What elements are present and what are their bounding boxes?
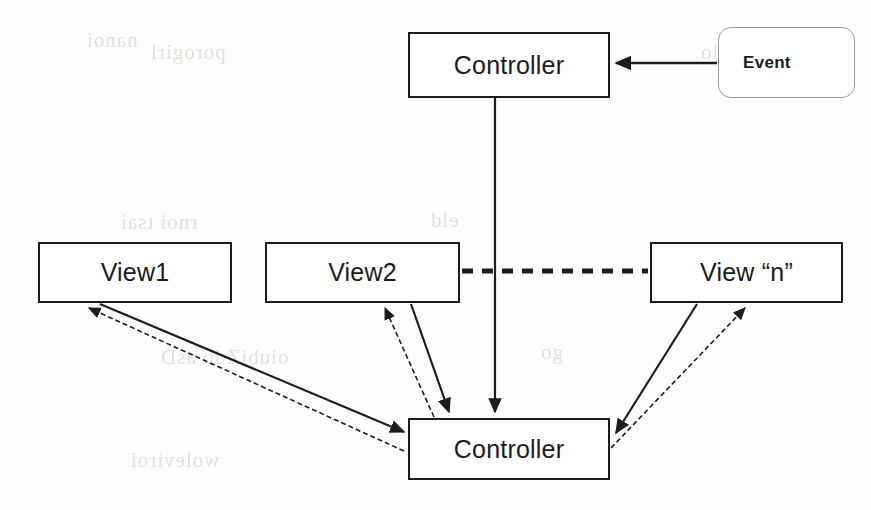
node-label: Controller [454,53,564,78]
node-controller-bottom[interactable]: Controller [408,418,610,480]
edge-view1-to-controller-bottom [100,304,404,432]
node-viewn[interactable]: View “n” [650,242,843,303]
node-label: Event [719,54,791,71]
edge-controller-bottom-to-viewn [611,308,745,448]
node-label: View2 [328,260,397,285]
node-view2[interactable]: View2 [265,242,460,303]
node-controller-top[interactable]: Controller [408,32,610,98]
node-event[interactable]: Event [718,27,855,98]
edge-controller-bottom-to-view2 [385,308,434,417]
diagram-canvas: nanoi porogirl boroq lo rnoi tsai eld oi… [0,0,871,510]
edge-view2-to-controller-bottom [411,304,449,412]
node-label: View “n” [700,260,793,285]
node-label: View1 [101,260,170,285]
node-view1[interactable]: View1 [38,242,232,303]
edge-viewn-to-controller-bottom [616,304,697,433]
edge-controller-bottom-to-view1 [89,308,404,451]
node-label: Controller [454,437,564,462]
